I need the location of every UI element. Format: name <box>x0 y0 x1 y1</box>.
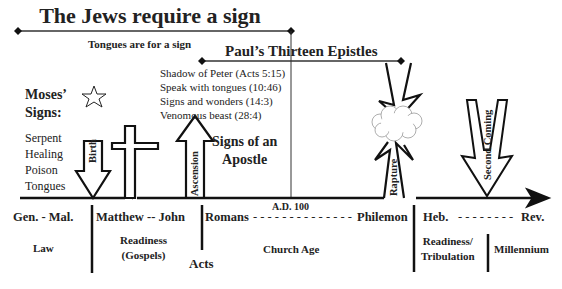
epistles-heading: Paul’s Thirteen Epistles <box>225 43 378 60</box>
ascension-label: Ascension <box>189 151 200 196</box>
moses-sign-item: Tongues <box>25 178 66 194</box>
acts-sign-item: Speak with tongues (10:46) <box>160 80 285 94</box>
moses-signs-list: Serpent Healing Poison Tongues <box>25 130 66 194</box>
ad-100-label: A.D. 100 <box>272 201 309 212</box>
cloud-icon <box>372 106 422 141</box>
page-title: The Jews require a sign <box>0 3 300 29</box>
acts-signs-list: Shadow of Peter (Acts 5:15) Speak with t… <box>160 66 285 122</box>
book-gen-mal: Gen. - Mal. <box>13 210 73 225</box>
era-readiness-tribulation: Readiness/ Tribulation <box>421 234 475 264</box>
birth-label: Birth <box>87 139 98 163</box>
dashes-church: - - - - - - - - - - - - - - <box>253 210 352 225</box>
book-heb: Heb. <box>423 210 448 225</box>
era-law: Law <box>33 241 54 256</box>
era-church-age: Church Age <box>263 242 319 257</box>
cross-icon <box>112 126 158 198</box>
moses-sign-item: Serpent <box>25 130 66 146</box>
moses-heading: Moses’ Signs: <box>25 86 67 122</box>
tongues-subtitle: Tongues are for a sign <box>88 38 191 50</box>
rapture-label: Rapture <box>388 159 399 196</box>
era-readiness-gospels: Readiness (Gospels) <box>120 233 167 263</box>
book-rev: Rev. <box>521 210 544 225</box>
acts-sign-item: Venomous beast (28:4) <box>160 108 285 122</box>
second-coming-label: Second Coming <box>482 110 493 180</box>
book-matthew-john: Matthew -- John <box>96 210 185 225</box>
book-romans: Romans <box>205 210 249 225</box>
book-philemon: Philemon <box>357 210 408 225</box>
acts-sign-item: Signs and wonders (14:3) <box>160 94 285 108</box>
dashes-heb-rev: - - - - - - - - <box>458 210 513 225</box>
star-icon <box>82 86 106 107</box>
acts-sign-item: Shadow of Peter (Acts 5:15) <box>160 66 285 80</box>
moses-sign-item: Poison <box>25 162 66 178</box>
signs-of-apostle-label: Signs of an Apostle <box>212 133 277 169</box>
era-acts: Acts <box>189 256 214 272</box>
moses-sign-item: Healing <box>25 146 66 162</box>
era-millennium: Millennium <box>494 242 549 257</box>
